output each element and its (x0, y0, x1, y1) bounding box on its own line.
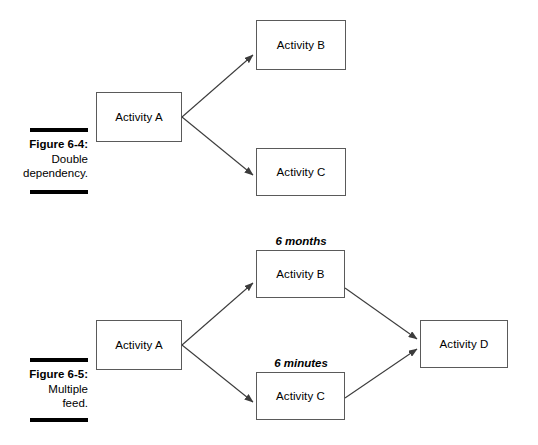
edge-b-to-d-fig2 (345, 288, 417, 339)
edge-c-to-d-fig2 (345, 349, 417, 398)
node-activity-d-fig2[interactable]: Activity D (420, 320, 508, 368)
node-activity-c-fig1[interactable]: Activity C (256, 148, 346, 196)
node-activity-a-fig1[interactable]: Activity A (96, 92, 182, 142)
duration-label-upper: 6 months (256, 235, 346, 247)
figure-description-line-1: Double (0, 152, 88, 167)
caption-rule-top (30, 358, 88, 362)
edge-a-to-b-fig2 (182, 283, 253, 345)
caption-text: Figure 6-4: Double dependency. (0, 137, 88, 181)
node-activity-b-fig1[interactable]: Activity B (256, 20, 346, 70)
caption-rule-top (30, 128, 88, 132)
node-activity-a-fig2[interactable]: Activity A (96, 320, 182, 370)
figure-description-line-2: dependency. (0, 166, 88, 181)
caption-text: Figure 6-5: Multiple feed. (0, 367, 88, 411)
edge-a-to-c-fig1 (182, 117, 253, 175)
node-activity-c-fig2[interactable]: Activity C (256, 372, 345, 420)
caption-rule-bottom (30, 190, 88, 194)
figure-number: Figure 6-4: (0, 137, 88, 152)
figure-number: Figure 6-5: (0, 367, 88, 382)
caption-rule-bottom (30, 418, 88, 422)
edge-a-to-b-fig1 (182, 55, 253, 117)
figure-description-line-1: Multiple (0, 382, 88, 397)
node-activity-b-fig2[interactable]: Activity B (256, 250, 345, 298)
edge-a-to-c-fig2 (182, 345, 253, 402)
figure-description-line-2: feed. (0, 396, 88, 411)
duration-label-lower: 6 minutes (256, 357, 346, 369)
figure-page: Figure 6-4: Double dependency. Activity … (0, 0, 538, 445)
